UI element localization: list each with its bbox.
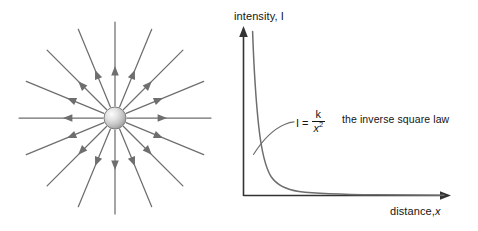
ray-line <box>120 29 152 107</box>
y-axis-arrowhead <box>239 26 248 37</box>
y-axis-label: intensity, I <box>234 10 284 22</box>
ray-line <box>126 123 204 155</box>
ray-arrowhead <box>153 98 163 105</box>
ray-line <box>126 81 204 113</box>
ray-arrowhead <box>158 114 167 122</box>
ray-line <box>47 127 106 186</box>
ray-arrowhead <box>153 131 163 138</box>
ray-line <box>26 123 104 155</box>
equation-denominator: x2 <box>312 122 326 134</box>
radiation-diagram <box>19 22 211 214</box>
ray-line <box>124 127 183 186</box>
equation-numerator: k <box>314 109 324 121</box>
ray-line <box>78 129 110 207</box>
inverse-square-law-caption: the inverse square law <box>342 113 449 125</box>
x-axis-label-text: distance, <box>390 205 435 217</box>
ray-arrowhead <box>63 114 72 122</box>
ray-line <box>78 29 110 107</box>
ray-line <box>47 50 106 109</box>
equation-fraction: k x2 <box>312 109 326 134</box>
ray-arrowhead <box>111 66 119 75</box>
ray-arrowhead <box>128 70 135 80</box>
ray-arrowhead <box>128 156 135 166</box>
equation-equals: = <box>302 117 308 129</box>
ray-arrowhead <box>67 98 77 105</box>
ray-arrowhead <box>95 156 102 166</box>
equation-lhs: I <box>296 117 299 129</box>
ray-arrowhead <box>95 70 102 80</box>
x-axis-label-variable: x <box>435 205 441 217</box>
ray-line <box>124 50 183 109</box>
ray-line <box>120 129 152 207</box>
point-source-sphere <box>104 107 126 129</box>
inverse-square-equation: I = k x2 <box>296 110 325 135</box>
ray-line <box>26 81 104 113</box>
equation-denominator-exponent: 2 <box>319 120 323 129</box>
ray-arrowhead <box>111 161 119 170</box>
ray-arrowhead <box>67 131 77 138</box>
x-axis-label: distance,x <box>390 205 441 217</box>
